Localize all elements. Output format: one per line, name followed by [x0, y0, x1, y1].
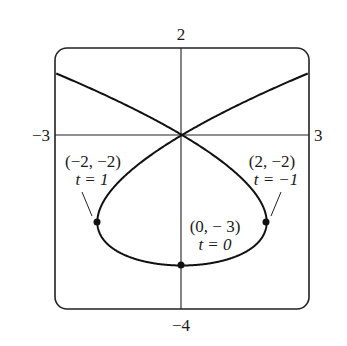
parametric-plot: 2 −4 −3 3 (−2, −2) t = 1 (2, −2) t = −1 … — [0, 0, 347, 346]
point-t-1-coord: (2, −2) — [249, 152, 295, 171]
point-t0-coord: (0, − 3) — [190, 217, 241, 236]
point-t1 — [94, 219, 101, 226]
x-min-label: −3 — [32, 126, 50, 145]
point-t1-param: t = 1 — [75, 170, 108, 189]
point-t1-coord: (−2, −2) — [65, 152, 121, 171]
x-max-label: 3 — [314, 126, 323, 145]
point-t0-param: t = 0 — [198, 235, 232, 254]
leader-line-left — [82, 192, 92, 216]
y-min-label: −4 — [172, 316, 191, 335]
point-t-1 — [263, 219, 270, 226]
y-max-label: 2 — [177, 25, 186, 44]
leader-line-right — [271, 192, 281, 216]
point-t0 — [178, 262, 185, 269]
point-t-1-param: t = −1 — [254, 170, 299, 189]
